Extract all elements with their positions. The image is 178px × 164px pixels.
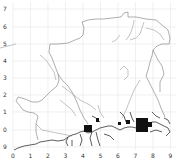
x-tick-label: 8	[151, 153, 155, 159]
y-tick-label: 2	[3, 92, 7, 98]
x-tick-label: 2	[46, 153, 50, 159]
y-tick-label: 6	[3, 24, 7, 30]
y-tick-label: 0	[3, 127, 7, 133]
urban-area-west	[84, 125, 92, 132]
grid-lines	[13, 2, 176, 150]
x-tick-label: 3	[64, 153, 68, 159]
y-tick-label: 7	[3, 6, 7, 12]
x-tick-label: 0	[11, 153, 15, 159]
urban-area-east	[136, 118, 148, 132]
y-tick-label: 5	[3, 41, 7, 47]
y-tick-label: 9	[3, 144, 7, 150]
y-tick-label: 4	[3, 58, 7, 64]
y-tick-label: 3	[3, 75, 7, 81]
y-tick-label: 1	[3, 109, 7, 115]
x-tick-label: 9	[169, 153, 173, 159]
x-tick-label: 4	[81, 153, 85, 159]
x-tick-label: 5	[99, 153, 103, 159]
x-tick-label: 7	[134, 153, 138, 159]
map-canvas	[0, 0, 178, 164]
x-tick-label: 6	[116, 153, 120, 159]
x-tick-label: 1	[29, 153, 33, 159]
